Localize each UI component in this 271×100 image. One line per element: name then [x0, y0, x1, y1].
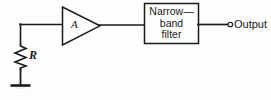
- schematic-figure: R A Narrow— band filter Output: [0, 0, 271, 100]
- output-terminal-circle: [228, 22, 233, 27]
- resistor-zigzag: [15, 44, 26, 70]
- amplifier-triangle-shape: [63, 7, 101, 45]
- filter-label-line-1: Narrow—: [145, 6, 198, 18]
- schematic-drawing: [0, 0, 271, 100]
- resistor-label: R: [29, 49, 37, 61]
- filter-block-label: Narrow— band filter: [145, 6, 198, 41]
- filter-label-line-3: filter: [145, 29, 198, 41]
- output-label: Output: [234, 18, 267, 30]
- amplifier-gain-label: A: [71, 19, 78, 30]
